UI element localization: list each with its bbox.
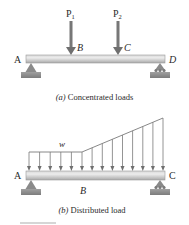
load-arrow-p1 — [66, 21, 76, 55]
beam-b — [26, 171, 165, 180]
point-label-b: B — [77, 42, 83, 53]
load-label-w: w — [59, 139, 65, 149]
roller-support-b — [150, 180, 170, 195]
pin-support-a — [21, 63, 41, 78]
cropped-text-remnant — [20, 222, 56, 224]
figure-a-concentrated-loads: P1 P2 A B C D (a) Concentrate — [14, 8, 177, 102]
load-arrow-p2 — [113, 21, 123, 55]
beam-diagrams: P1 P2 A B C D (a) Concentrate — [0, 0, 189, 225]
point-label-c: C — [124, 42, 131, 53]
load-label-p2: P2 — [113, 8, 122, 20]
point-label-c: C — [169, 170, 176, 181]
load-label-p1: P1 — [66, 8, 75, 20]
caption-b: (b) Distributed load — [58, 205, 126, 215]
point-label-b: B — [80, 185, 86, 196]
distributed-load-arrows — [29, 118, 163, 167]
point-label-d: D — [168, 54, 177, 65]
distributed-load-arrowheads — [27, 166, 165, 171]
beam-a — [26, 55, 165, 63]
caption-a: (a) Concentrated loads — [56, 92, 133, 102]
point-label-a: A — [14, 170, 22, 181]
roller-support-a — [150, 63, 170, 78]
point-label-a: A — [14, 54, 22, 65]
figure-b-distributed-load: w A B C (b) Distributed load — [14, 118, 176, 215]
pin-support-b — [21, 180, 41, 195]
